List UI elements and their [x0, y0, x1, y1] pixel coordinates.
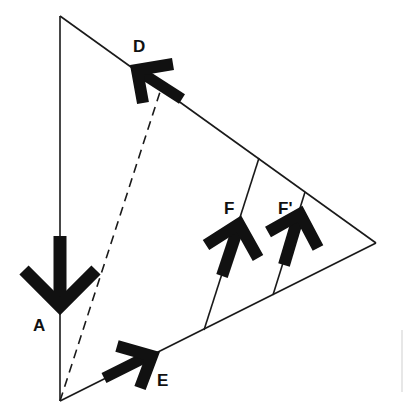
triangle — [60, 16, 376, 401]
top-edge — [60, 16, 376, 243]
label-d: D — [133, 37, 145, 56]
label-f: F — [224, 199, 234, 218]
label-f-prime: F' — [278, 199, 292, 218]
label-e: E — [157, 371, 168, 390]
arrow-a-icon — [24, 236, 96, 306]
label-a: A — [33, 316, 45, 335]
arrow-f-prime-icon — [268, 214, 318, 265]
arrow-f-icon — [206, 224, 258, 276]
arrow-d-icon — [137, 64, 182, 103]
arrow-e-icon — [104, 346, 152, 388]
vector-diagram: D A E F F' — [0, 0, 405, 412]
